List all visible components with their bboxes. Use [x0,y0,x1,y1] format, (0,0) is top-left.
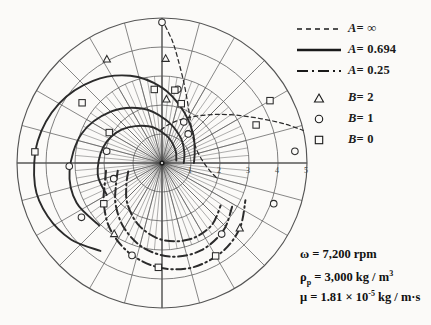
omega-symbol: ω [300,247,309,261]
legend-symbol-a: A [348,63,357,77]
parameter-annotations: ω = 7,200 rpm ρp = 3,000 kg / m3 μ = 1.8… [300,244,431,304]
mu-symbol: μ [300,290,307,304]
legend-swatch-fine-dashed [296,22,342,36]
data-marker-square-b0 [101,201,107,207]
rho-value: = 3,000 kg / m [314,270,389,284]
data-marker-square-b0 [155,264,161,270]
legend-swatch-dash-dot [296,64,342,78]
legend-symbol-b: B [348,111,357,125]
rho-exponent: 3 [389,269,393,278]
legend-symbol-a: A [348,21,357,35]
legend-label-a-0694: A= 0.694 [342,42,396,57]
figure-container: 12345 A= ∞ A= 0.694 [0,0,431,325]
data-marker-square-b0 [212,253,218,259]
data-marker-square-b0 [172,87,178,93]
data-marker-circle-b1 [218,231,225,238]
legend-value-b-2: = 2 [357,90,374,104]
legend-marker-b-0: B= 0 [296,129,431,150]
data-marker-triangle-b2 [236,224,243,231]
data-marker-circle-b1 [180,119,187,126]
legend: A= ∞ A= 0.694 A= 0.25 [296,18,431,150]
legend-marker-b-2: B= 2 [296,87,431,108]
data-marker-square-b0 [267,97,273,103]
data-marker-circle-b1 [110,175,117,182]
data-marker-square-b0 [253,122,259,128]
radial-tick-label: 2 [217,166,221,175]
data-marker-triangle-b2 [163,95,170,102]
polar-chart-svg: 12345 [0,0,325,325]
mu-units: kg / m·s [375,290,421,304]
legend-marker-b-1: B= 1 [296,108,431,129]
data-marker-circle-b1 [66,163,73,170]
data-marker-square-b0 [151,86,157,92]
data-marker-circle-b1 [270,200,277,207]
radial-tick-label: 1 [188,166,192,175]
legend-symbol-b: B [348,90,357,104]
radial-tick-label: 4 [275,166,279,175]
legend-symbol-b: B [348,132,357,146]
omega-value: = 7,200 rpm [312,247,376,261]
legend-label-b-0: B= 0 [342,132,374,147]
legend-label-a-025: A= 0.25 [342,63,390,78]
parameter-mu: μ = 1.81 × 10-5 kg / m·s [300,284,431,304]
legend-value-b-1: = 1 [357,111,374,125]
radial-tick-label: 5 [304,166,308,175]
legend-label-a-infinity: A= ∞ [342,21,376,36]
polar-center-dot [161,162,163,164]
parameter-omega: ω = 7,200 rpm [300,244,431,264]
data-marker-circle-b1 [159,19,166,26]
legend-swatch-solid [296,43,342,57]
data-marker-triangle-b2 [162,55,169,62]
legend-swatch-triangle [296,91,342,105]
legend-value-a-infinity: = ∞ [357,21,377,35]
legend-swatch-circle [296,112,342,126]
data-marker-square-b0 [79,100,85,106]
legend-symbol-a: A [348,42,357,56]
legend-line-a-infinity: A= ∞ [296,18,431,39]
mu-value-mantissa: = 1.81 × 10 [310,290,368,304]
data-marker-square-b0 [106,129,112,135]
legend-label-b-2: B= 2 [342,90,374,105]
data-marker-circle-b1 [78,214,85,221]
mu-exponent: -5 [368,289,375,298]
polar-chart: 12345 [0,0,325,325]
data-marker-square-b0 [32,149,38,155]
data-marker-triangle-b2 [103,55,110,62]
rho-symbol: ρ [300,270,307,284]
legend-swatch-square [296,133,342,147]
data-marker-circle-b1 [103,148,110,155]
legend-line-a-025: A= 0.25 [296,60,431,81]
parameter-rho-p: ρp = 3,000 kg / m3 [300,264,431,284]
legend-label-b-1: B= 1 [342,111,374,126]
data-marker-circle-b1 [129,252,136,259]
legend-value-a-025: = 0.25 [357,63,390,77]
legend-line-a-0694: A= 0.694 [296,39,431,60]
data-marker-square-b0 [178,101,184,107]
legend-value-b-0: = 0 [357,132,374,146]
data-marker-circle-b1 [185,131,192,138]
legend-value-a-0694: = 0.694 [357,42,397,56]
radial-tick-label: 3 [246,166,250,175]
